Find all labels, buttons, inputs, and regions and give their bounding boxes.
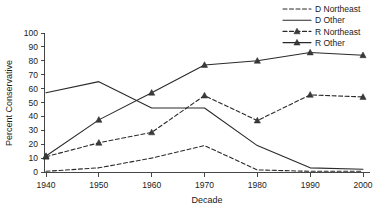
legend-entry[interactable]: D Northeast — [283, 4, 361, 14]
data-point-marker — [96, 117, 102, 123]
legend-label: R Northeast — [315, 27, 361, 37]
line-chart: 0102030405060708090100 Percent Conservat… — [0, 0, 376, 209]
legend-entry[interactable]: R Other — [283, 38, 345, 48]
y-tick-label: 70 — [29, 70, 39, 80]
y-tick-label: 30 — [29, 125, 39, 135]
y-axis-ticks — [41, 33, 45, 172]
data-point-marker — [149, 90, 155, 96]
x-axis-title: Decade — [191, 195, 222, 205]
legend-label: R Other — [315, 38, 345, 48]
x-tick-label: 2000 — [354, 180, 373, 190]
y-axis-tick-labels: 0102030405060708090100 — [24, 28, 38, 177]
legend-entry[interactable]: R Northeast — [283, 27, 361, 37]
legend-label: D Other — [315, 15, 345, 25]
x-axis: 1940195019601970198019902000 Decade — [37, 173, 373, 206]
y-tick-label: 20 — [29, 139, 39, 149]
data-point-marker — [96, 140, 102, 146]
y-tick-label: 100 — [24, 28, 38, 38]
chart-figure: 0102030405060708090100 Percent Conservat… — [0, 0, 376, 209]
x-tick-label: 1950 — [89, 180, 108, 190]
x-tick-label: 1970 — [195, 180, 214, 190]
y-tick-label: 50 — [29, 98, 39, 108]
y-tick-label: 60 — [29, 84, 39, 94]
data-series-group — [43, 49, 366, 171]
y-tick-label: 40 — [29, 111, 39, 121]
x-axis-tick-labels: 1940195019601970198019902000 — [37, 180, 373, 190]
x-tick-label: 1990 — [301, 180, 320, 190]
series-line — [46, 52, 363, 156]
series-line — [46, 95, 363, 157]
y-tick-label: 0 — [33, 167, 38, 177]
chart-legend: D NortheastD OtherR NortheastR Other — [283, 4, 361, 48]
y-tick-label: 90 — [29, 42, 39, 52]
y-axis: 0102030405060708090100 Percent Conservat… — [4, 28, 45, 177]
x-axis-ticks — [46, 173, 363, 178]
legend-entry[interactable]: D Other — [283, 15, 345, 25]
legend-label: D Northeast — [315, 4, 361, 14]
data-point-marker — [201, 92, 207, 98]
x-tick-label: 1960 — [142, 180, 161, 190]
data-point-marker — [149, 129, 155, 135]
x-tick-label: 1940 — [37, 180, 56, 190]
x-tick-label: 1980 — [248, 180, 267, 190]
y-axis-title: Percent Conservative — [4, 60, 14, 146]
y-tick-label: 80 — [29, 56, 39, 66]
y-tick-label: 10 — [29, 153, 39, 163]
data-point-marker — [254, 117, 260, 123]
series-r-other — [43, 49, 366, 158]
